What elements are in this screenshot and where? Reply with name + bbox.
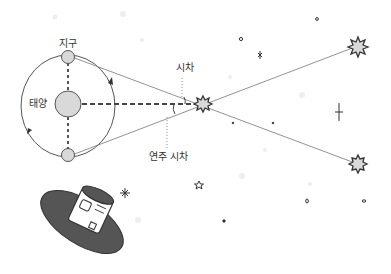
earth-top (62, 51, 75, 64)
space-telescope-icon (31, 178, 134, 266)
sun-label: 태양 (29, 99, 47, 109)
parallax-angle-arc (184, 97, 185, 104)
sun (55, 91, 81, 117)
earth-label: 지구 (59, 39, 77, 49)
annual-parallax-label: 연주 시차 (149, 152, 188, 162)
parallax-label: 시차 (176, 63, 194, 73)
far-star-bottom-icon (349, 155, 367, 173)
earth-bottom (62, 149, 75, 162)
near-star-icon (194, 96, 212, 112)
background-stars (120, 18, 366, 223)
orbit-arrow-icon (27, 128, 32, 134)
annual-parallax-angle-arc (173, 104, 175, 114)
far-star-top-icon (348, 37, 368, 57)
